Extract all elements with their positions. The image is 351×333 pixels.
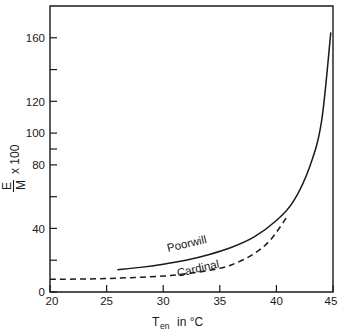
y-tick-label-160: 160 <box>26 32 45 44</box>
x-tick-label-25: 25 <box>100 295 113 307</box>
y-tick-label-40: 40 <box>32 223 45 235</box>
y-tick-label-0: 0 <box>39 286 45 298</box>
x-axis-title-main: T <box>152 315 160 329</box>
y-axis-title-denominator: M <box>14 180 28 190</box>
x-axis-title-tail: in °C <box>177 315 203 329</box>
y-axis-title-multiplier: x 100 <box>8 144 22 174</box>
x-tick-label-20: 20 <box>46 295 59 307</box>
x-tick-label-45: 45 <box>325 295 338 307</box>
x-axis-title-subscript: en <box>160 321 170 331</box>
y-tick-label-120: 120 <box>26 96 45 108</box>
y-axis-title-numerator: E <box>0 182 14 190</box>
x-tick-label-40: 40 <box>270 295 283 307</box>
y-tick-label-80: 80 <box>32 159 45 171</box>
y-tick-label-100: 100 <box>26 127 45 139</box>
x-tick-label-35: 35 <box>213 295 226 307</box>
x-tick-label-30: 30 <box>157 295 170 307</box>
chart-figure: 0 40 80 100 120 160 20 25 30 35 40 45 E … <box>0 0 351 333</box>
figure-background <box>0 0 351 333</box>
